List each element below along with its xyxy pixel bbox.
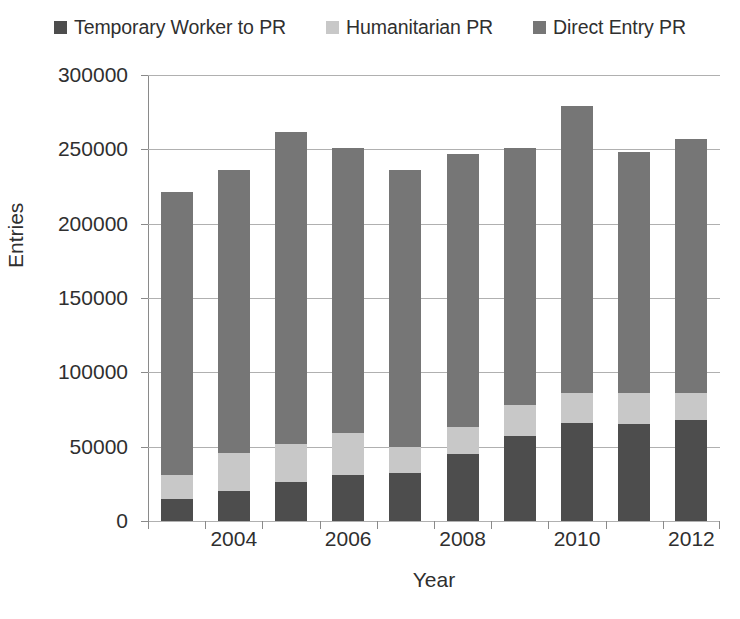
y-axis-tick: [141, 521, 148, 522]
bar-segment: [218, 491, 250, 521]
y-axis-tick-label: 50000: [70, 436, 128, 457]
bar-2011: [675, 75, 707, 521]
legend-label-direct-entry-pr: Direct Entry PR: [553, 18, 686, 38]
bar-segment: [561, 106, 593, 393]
bar-segment: [675, 393, 707, 420]
bar-2007: [447, 75, 479, 521]
y-axis-tick: [141, 75, 148, 76]
x-axis-tick-label: 2006: [325, 528, 372, 549]
bar-segment: [275, 482, 307, 521]
bar-segment: [447, 454, 479, 521]
y-axis-title: Entries: [4, 203, 28, 268]
bar-segment: [618, 152, 650, 393]
y-axis-tick-label: 100000: [58, 361, 128, 382]
bar-segment: [561, 423, 593, 521]
legend-label-humanitarian-pr: Humanitarian PR: [346, 18, 493, 38]
bar-segment: [675, 420, 707, 521]
bar-segment: [447, 154, 479, 428]
bar-segment: [389, 447, 421, 474]
bar-segment: [389, 473, 421, 521]
bar-2008: [504, 75, 536, 521]
stacked-bar-chart: Temporary Worker to PR Humanitarian PR D…: [0, 0, 740, 619]
y-axis-tick-label: 150000: [58, 287, 128, 308]
y-axis-tick: [141, 372, 148, 373]
bar-segment: [389, 170, 421, 447]
bar-segment: [332, 475, 364, 521]
bar-segment: [675, 139, 707, 393]
legend-item-humanitarian-pr: Humanitarian PR: [326, 18, 493, 38]
y-axis-tick: [141, 149, 148, 150]
y-axis-tick-label: 0: [116, 510, 128, 531]
bar-segment: [618, 393, 650, 424]
plot-area: [148, 75, 720, 521]
bar-2002: [161, 75, 193, 521]
bar-2003: [218, 75, 250, 521]
x-axis-tick-label: 2010: [554, 528, 601, 549]
x-axis-tick-label: 2012: [668, 528, 715, 549]
bar-segment: [504, 148, 536, 405]
bar-2010: [618, 75, 650, 521]
y-axis-tick: [141, 298, 148, 299]
x-axis-tick-labels: 20042006200820102012: [148, 528, 720, 558]
bar-segment: [332, 148, 364, 433]
bar-segment: [504, 405, 536, 436]
y-axis-tick: [141, 447, 148, 448]
bar-2006: [389, 75, 421, 521]
legend-item-direct-entry-pr: Direct Entry PR: [533, 18, 686, 38]
bar-segment: [275, 444, 307, 483]
x-axis-tick-label: 2004: [210, 528, 257, 549]
y-axis-tick: [141, 224, 148, 225]
bar-2004: [275, 75, 307, 521]
bar-segment: [275, 132, 307, 444]
bar-segment: [447, 427, 479, 454]
y-axis-tick-label: 250000: [58, 138, 128, 159]
legend-swatch-icon-humanitarian-pr: [326, 21, 339, 34]
y-axis-tick-label: 200000: [58, 213, 128, 234]
legend-swatch-icon-direct-entry-pr: [533, 21, 546, 34]
bar-segment: [161, 475, 193, 499]
bar-segment: [561, 393, 593, 423]
bar-segment: [161, 499, 193, 521]
x-axis-title: Year: [148, 568, 720, 592]
bar-segment: [161, 192, 193, 474]
y-axis-tick-labels: 050000100000150000200000250000300000: [0, 0, 140, 619]
bar-segment: [332, 433, 364, 475]
x-axis-tick-label: 2008: [439, 528, 486, 549]
bar-2009: [561, 75, 593, 521]
bar-segment: [218, 453, 250, 492]
bar-segment: [618, 424, 650, 521]
y-axis-tick-label: 300000: [58, 64, 128, 85]
bar-segment: [218, 170, 250, 452]
bar-segment: [504, 436, 536, 521]
bar-2005: [332, 75, 364, 521]
